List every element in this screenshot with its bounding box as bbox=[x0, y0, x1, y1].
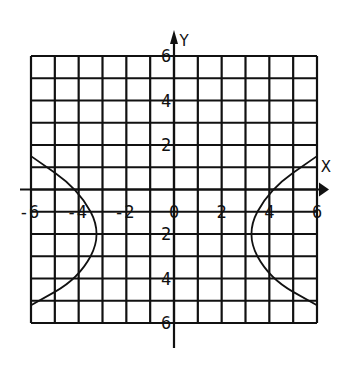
y-tick-label: 6 bbox=[161, 46, 171, 66]
y-tick-label: 4 bbox=[161, 269, 171, 289]
hyperbola-left-branch bbox=[31, 156, 97, 305]
x-tick-label: 0 bbox=[169, 202, 179, 222]
x-tick-label: 2 bbox=[217, 202, 227, 222]
x-axis-label: X bbox=[321, 158, 331, 176]
x-tick-label: 4 bbox=[264, 202, 274, 222]
hyperbola-right-branch bbox=[251, 156, 317, 305]
y-tick-label: 6 bbox=[161, 313, 171, 333]
y-tick-label: 4 bbox=[161, 91, 171, 111]
x-tick-label: -6 bbox=[19, 202, 39, 222]
y-tick-label: 2 bbox=[161, 135, 171, 155]
x-tick-label: -4 bbox=[66, 202, 86, 222]
x-tick-label: 6 bbox=[312, 202, 322, 222]
y-axis-arrow-icon bbox=[170, 30, 178, 44]
y-axis-label: Y bbox=[178, 32, 189, 50]
x-tick-label: -2 bbox=[114, 202, 134, 222]
x-axis-arrow-icon bbox=[319, 183, 329, 197]
y-tick-label: 2 bbox=[161, 224, 171, 244]
hyperbola-chart: YX-6-4-20246642246 bbox=[0, 0, 344, 372]
